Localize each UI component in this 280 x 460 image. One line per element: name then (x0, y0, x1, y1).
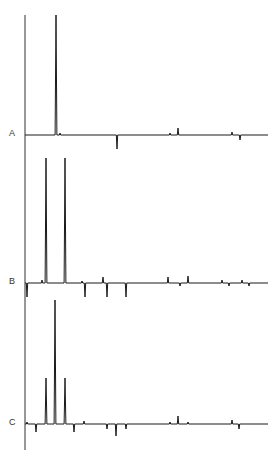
trace-c (25, 300, 268, 436)
trace-label-b: B (9, 276, 15, 286)
trace-label-c: C (9, 417, 16, 427)
trace-a (25, 15, 268, 149)
spectral-traces (25, 15, 268, 436)
trace-label-a: A (9, 128, 15, 138)
trace-b (25, 158, 268, 297)
spectra-figure (0, 0, 280, 460)
